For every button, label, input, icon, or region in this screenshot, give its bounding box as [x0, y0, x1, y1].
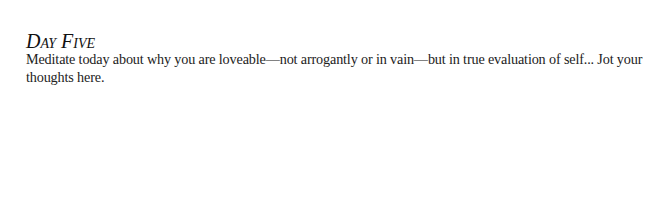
journal-prompt: Meditate today about why you are loveabl…: [26, 51, 646, 86]
day-title: Day Five: [26, 31, 646, 51]
journal-entry: Day Five Meditate today about why you ar…: [26, 31, 646, 86]
